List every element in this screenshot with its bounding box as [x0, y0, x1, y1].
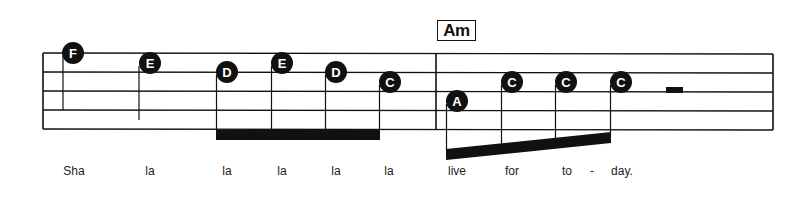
staff-line-4 [43, 110, 773, 111]
staff-line-5 [43, 129, 773, 130]
svg-text:C: C [561, 75, 571, 90]
svg-text:C: C [507, 75, 517, 90]
note-C: C [555, 71, 577, 93]
lyric-syllable: day. [611, 164, 633, 178]
svg-text:D: D [331, 65, 340, 80]
note-C: C [610, 71, 632, 93]
lyric-hyphen: - [590, 164, 594, 178]
note-C: C [501, 71, 523, 93]
lyric-syllable: Sha [63, 164, 84, 178]
half-rest-icon [666, 87, 683, 93]
svg-text:C: C [616, 75, 626, 90]
note-E: E [139, 52, 161, 74]
note-F: F [62, 42, 84, 64]
music-staff: F E D E D C A C C C [0, 0, 811, 197]
svg-text:E: E [146, 56, 155, 71]
staff-line-3 [43, 91, 773, 92]
lyric-syllable: to [562, 164, 572, 178]
lyric-syllable: for [505, 164, 519, 178]
lyric-syllable: la [145, 164, 154, 178]
svg-text:F: F [69, 46, 77, 61]
beam [216, 130, 380, 140]
lyric-syllable: la [277, 164, 286, 178]
lyric-syllable: la [222, 164, 231, 178]
note-E: E [271, 52, 293, 74]
svg-text:A: A [452, 94, 462, 109]
svg-text:D: D [222, 65, 231, 80]
svg-text:C: C [385, 75, 395, 90]
note-C: C [379, 71, 401, 93]
chord-symbol: Am [437, 20, 476, 41]
note-A: A [446, 90, 468, 112]
lyric-syllable: la [331, 164, 340, 178]
note-D: D [216, 61, 238, 83]
beam [446, 132, 611, 160]
lyric-syllable: la [384, 164, 393, 178]
note-D: D [325, 61, 347, 83]
svg-text:E: E [278, 56, 287, 71]
lyric-syllable: live [448, 164, 466, 178]
